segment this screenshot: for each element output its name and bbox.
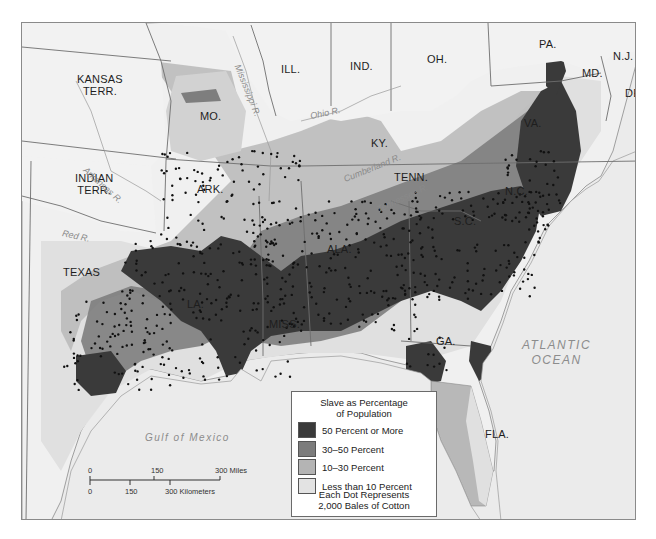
- state-label-la: LA.: [187, 298, 204, 310]
- scale-line: [88, 475, 228, 487]
- state-label-va: VA.: [524, 117, 542, 129]
- legend-swatch: [298, 441, 316, 457]
- state-label-mo: MO.: [200, 110, 221, 122]
- state-label-ala: ALA.: [327, 243, 352, 255]
- state-label-ill: ILL.: [281, 63, 300, 75]
- legend-title: Slave as Percentageof Population: [292, 397, 436, 419]
- state-label-nc: N.C.: [505, 185, 528, 197]
- state-label-del: DEL.: [625, 87, 636, 99]
- state-label-oh: OH.: [427, 53, 447, 65]
- map-legend: Slave as Percentageof Population 50 Perc…: [291, 391, 437, 517]
- state-label-ark: ARK.: [197, 183, 223, 195]
- state-label-tenn: TENN.: [394, 171, 428, 183]
- state-label-ky: KY.: [371, 137, 388, 149]
- state-label-texas: TEXAS: [63, 266, 100, 278]
- state-label-fla: FLA.: [485, 428, 509, 440]
- state-label-miss: MISS.: [269, 318, 300, 330]
- state-label-md: MD.: [582, 67, 603, 79]
- state-label-kansas-terr: KANSASTERR.: [77, 73, 123, 97]
- state-label-nj: N.J.: [613, 50, 633, 62]
- legend-swatch: [298, 459, 316, 475]
- state-label-pa: PA.: [539, 38, 557, 50]
- state-label-ind: IND.: [350, 60, 373, 72]
- state-label-sc: S.C.: [454, 215, 476, 227]
- legend-item-10-30: 10–30 Percent: [298, 459, 384, 475]
- legend-item-50-plus: 50 Percent or More: [298, 422, 403, 438]
- legend-item-30-50: 30–50 Percent: [298, 441, 384, 457]
- legend-swatch: [298, 422, 316, 438]
- state-label-ga: GA.: [436, 335, 456, 347]
- legend-dot-note: Each Dot Represents2,000 Bales of Cotton: [292, 489, 436, 511]
- label-atlantic-ocean: ATLANTICOCEAN: [522, 338, 591, 368]
- label-gulf-of-mexico: Gulf of Mexico: [145, 430, 230, 445]
- scale-bar: 0 150 300 Miles 0 150 300 Kilometers: [88, 466, 288, 516]
